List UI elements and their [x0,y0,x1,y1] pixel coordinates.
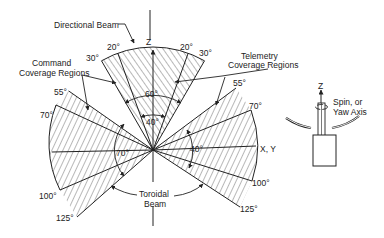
angle-label: 20° [107,42,120,52]
angle-label: 100° [252,178,270,188]
toroidal-label-1: Toroidal [139,189,169,199]
angle-label: 125° [240,204,258,214]
xy-axis-label: X, Y [260,144,276,154]
antenna-coverage-diagram: Directional Beam Command Coverage Region… [0,0,384,238]
telemetry-label-2: Coverage Regions [228,60,298,70]
angle-label: 55° [233,78,246,88]
directional-beam-label: Directional Beam [54,20,119,30]
spin-label-2: Yaw Axis [333,107,367,117]
angle-label: 100° [39,191,57,201]
angle-label: 125° [56,213,74,223]
angle-label: 70° [249,101,262,111]
angle-label: 70° [40,110,53,120]
command-label-2: Coverage Regions [19,68,89,78]
angle-label: 40° [190,144,203,154]
angle-label: 20° [180,42,193,52]
angle-label: 30° [199,48,212,58]
toroidal-label-2: Beam [144,199,166,209]
angle-label: 60° [145,89,158,99]
angle-label: 70° [116,148,129,158]
spin-label-1: Spin, or [333,97,362,107]
spin-z-label: Z [318,81,323,91]
command-label-1: Command [32,58,71,68]
angle-label: 30° [86,53,99,63]
angle-label: 55° [54,87,67,97]
angle-label: 40° [146,117,159,127]
z-axis-label: Z [146,37,151,47]
